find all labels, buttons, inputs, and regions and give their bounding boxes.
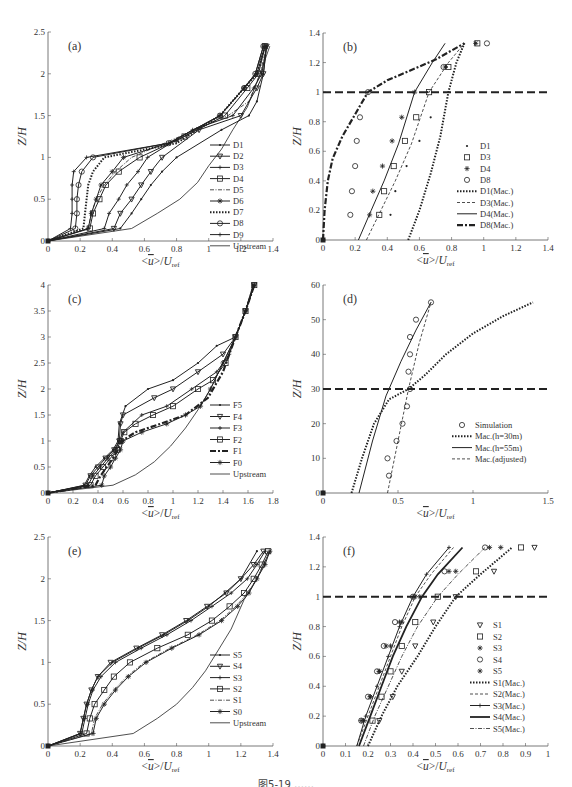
legend-entry: Mac.(h=30m): [475, 431, 522, 441]
x-tick-label: 0.2: [75, 749, 86, 759]
legend-marker: [459, 422, 464, 427]
x-tick-label: 1.4: [217, 496, 229, 506]
x-tick-label: 1.4: [542, 243, 554, 253]
data-point-marker: [453, 569, 458, 574]
x-tick-label: 0.6: [452, 749, 464, 759]
panel-label: (c): [68, 292, 81, 306]
y-tick-label: 0.6: [309, 146, 321, 156]
x-tick-label: 0.6: [139, 244, 151, 254]
data-point-marker: [357, 115, 362, 120]
series-d4: [367, 41, 478, 218]
legend: F5F4F3F2F1F0Upstream: [210, 400, 266, 479]
data-point-marker: [354, 138, 359, 143]
data-point-marker: [150, 184, 152, 186]
origin-marker: [46, 744, 51, 749]
legend-marker: [219, 144, 221, 146]
x-tick-label: 0.2: [75, 244, 86, 254]
y-tick-label: 3: [41, 332, 46, 342]
y-tick-label: 2.5: [34, 532, 46, 542]
y-axis-label: Z/H: [15, 126, 29, 146]
y-axis-label: Z/H: [290, 126, 304, 146]
x-tick-label: 0: [46, 749, 51, 759]
data-point-marker: [70, 183, 74, 187]
series-mac-h-30m-: [352, 302, 534, 493]
origin-marker: [321, 238, 326, 243]
data-point-marker: [413, 619, 418, 624]
legend-entry: D8: [480, 175, 490, 185]
series-s4-mac-: [359, 548, 463, 747]
series-d8: [348, 41, 490, 218]
legend-marker: [217, 460, 222, 465]
y-tick-label: 10: [311, 453, 321, 463]
y-tick-label: 0.5: [34, 462, 46, 472]
data-point-marker: [140, 198, 142, 200]
x-axis-label: <u>/Uref: [416, 507, 455, 521]
y-tick-label: 0.8: [309, 117, 321, 127]
y-tick-label: 2: [41, 384, 46, 394]
data-point-marker: [147, 388, 149, 390]
x-tick-label: 1.2: [192, 496, 203, 506]
legend-entry: D4: [480, 164, 491, 174]
y-axis-label: Z/H: [15, 631, 29, 651]
data-point-marker: [353, 163, 358, 168]
series-d1: [389, 42, 476, 216]
data-point-marker: [473, 569, 478, 574]
legend-entry: Upstream: [233, 241, 266, 251]
legend: D1D3D4D8D1(Mac.)D3(Mac.)D4(Mac.)D8(Mac.): [457, 141, 513, 230]
x-tick-label: 0.2: [362, 749, 373, 759]
legend-entry: D5: [233, 185, 243, 195]
y-tick-label: 2.5: [34, 27, 46, 37]
legend: S1S2S3S4S5S1(Mac.)S2(Mac.)S3(Mac.)S4(Mac…: [470, 620, 525, 734]
x-tick-label: 0.4: [407, 749, 419, 759]
y-tick-label: 1.2: [309, 562, 320, 572]
legend-entry: S5: [233, 650, 242, 660]
origin-marker: [46, 239, 51, 244]
x-tick-label: 0.4: [92, 496, 104, 506]
y-tick-label: 0.2: [309, 711, 320, 721]
series-f5: [48, 284, 254, 493]
legend-entry: D1(Mac.): [480, 186, 513, 196]
x-axis-label: <u>/Uref: [141, 507, 180, 521]
y-tick-label: 1: [316, 87, 321, 97]
legend-entry: S2: [493, 632, 502, 642]
x-tick-label: 0.1: [340, 749, 351, 759]
series-d8-mac-: [323, 43, 464, 240]
y-tick-label: 1.4: [309, 28, 321, 38]
data-point-marker: [518, 545, 523, 550]
data-point-marker: [220, 129, 222, 131]
legend-entry: Mac.(adjusted): [475, 454, 526, 464]
data-point-marker: [196, 632, 201, 637]
y-axis-label: Z/H: [290, 378, 304, 398]
y-tick-label: 0: [316, 488, 321, 498]
data-point-marker: [256, 550, 258, 552]
y-axis-label: Z/H: [15, 378, 29, 398]
data-point-marker: [406, 369, 411, 374]
y-tick-label: 0.4: [309, 176, 321, 186]
x-tick-label: 1.2: [235, 749, 246, 759]
x-tick-label: 1: [546, 749, 551, 759]
legend-marker: [477, 645, 482, 650]
y-tick-label: 0.5: [34, 194, 46, 204]
data-point-marker: [370, 189, 375, 194]
data-point-marker: [391, 163, 396, 168]
x-tick-label: 1: [171, 496, 176, 506]
x-tick-label: 0.7: [475, 749, 487, 759]
y-tick-label: 0: [316, 235, 321, 245]
series-s2-mac-: [357, 548, 454, 747]
x-tick-label: 0.8: [446, 243, 458, 253]
legend-entry: D4: [233, 174, 244, 184]
panel-label: (b): [343, 40, 357, 54]
data-point-marker: [377, 669, 382, 674]
data-point-marker: [119, 227, 121, 229]
legend-marker: [217, 709, 222, 714]
legend-entry: D8(Mac.): [480, 220, 513, 230]
y-tick-label: 0: [41, 236, 46, 246]
y-tick-label: 2: [41, 69, 46, 79]
y-tick-label: 20: [311, 419, 321, 429]
data-point-marker: [381, 189, 386, 194]
legend: D1D2D3D4D5D6D7D8D9Upstream: [210, 140, 266, 251]
legend-marker: [464, 155, 469, 160]
data-point-marker: [380, 163, 385, 168]
legend-entry: D1: [480, 141, 490, 151]
y-tick-label: 3.5: [34, 306, 46, 316]
